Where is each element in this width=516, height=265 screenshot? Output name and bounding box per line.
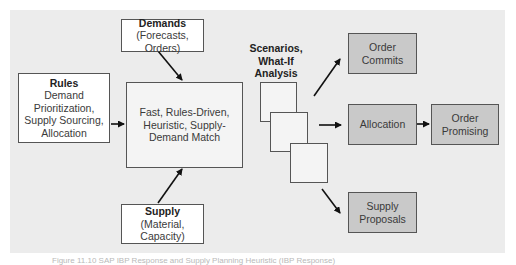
order-commits-line: Order xyxy=(369,41,396,54)
arrow-to-order-commits xyxy=(314,59,340,96)
supply-box: Supply (Material, Capacity) xyxy=(121,204,204,244)
allocation-line: Allocation xyxy=(360,118,406,131)
allocation-box: Allocation xyxy=(348,104,417,145)
engine-line: Fast, Rules-Driven, xyxy=(140,106,230,119)
scenarios-line: What-If xyxy=(246,55,306,68)
arrow-demands-to-engine xyxy=(158,51,182,80)
demands-line: (Forecasts, xyxy=(136,29,189,42)
engine-line: Demand Match xyxy=(149,131,220,144)
supply-proposals-line: Proposals xyxy=(359,213,406,226)
order-promising-box: Order Promising xyxy=(431,104,499,145)
rules-line: Allocation xyxy=(41,127,87,140)
scenarios-line: Scenarios, xyxy=(246,42,306,55)
rules-line: Prioritization, xyxy=(34,102,95,115)
supply-line: (Material, Capacity) xyxy=(122,218,203,243)
figure-caption: Figure 11.10 SAP IBP Response and Supply… xyxy=(52,256,335,265)
demands-box: Demands (Forecasts, Orders) xyxy=(121,19,204,52)
order-commits-box: Order Commits xyxy=(348,33,417,74)
supply-proposals-box: Supply Proposals xyxy=(348,192,417,233)
rules-title: Rules xyxy=(50,77,79,90)
rules-line: Supply Sourcing, xyxy=(24,114,103,127)
rules-box: Rules Demand Prioritization, Supply Sour… xyxy=(18,73,110,143)
arrow-to-supply-proposals xyxy=(322,189,340,213)
scenario-square-3 xyxy=(290,143,328,183)
scenarios-label: Scenarios, What-If Analysis xyxy=(246,42,306,80)
order-commits-line: Commits xyxy=(362,54,403,67)
demands-title: Demands xyxy=(139,17,186,30)
supply-title: Supply xyxy=(145,205,180,218)
rules-line: Demand xyxy=(44,89,84,102)
supply-proposals-line: Supply xyxy=(366,200,398,213)
demands-line: Orders) xyxy=(145,42,181,55)
order-promising-line: Order xyxy=(452,112,479,125)
arrow-supply-to-engine xyxy=(158,169,182,203)
heuristic-engine-box: Fast, Rules-Driven, Heuristic, Supply- D… xyxy=(126,82,243,168)
order-promising-line: Promising xyxy=(442,125,489,138)
scenarios-line: Analysis xyxy=(246,67,306,80)
engine-line: Heuristic, Supply- xyxy=(143,119,225,132)
